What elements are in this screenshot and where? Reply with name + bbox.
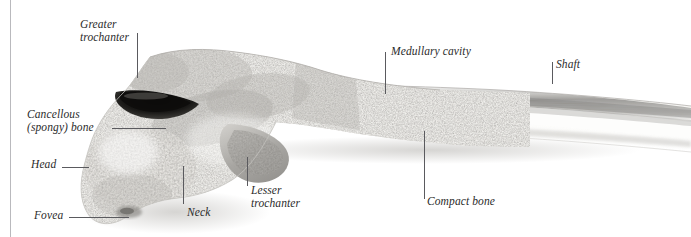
neck-leader (183, 166, 184, 204)
label-cancellous-spongy-bone: Cancellous (spongy) bone (27, 108, 94, 134)
femoral-head-region (84, 126, 196, 210)
lesser-trochanter-leader (247, 157, 248, 186)
page-margin-rule (10, 0, 11, 237)
lesser-trochanter-region (220, 124, 289, 183)
greater-trochanter-region (124, 46, 252, 102)
label-lesser-trochanter: Lesser trochanter (251, 184, 300, 210)
femur-anatomy-figure: Greater trochanter Cancellous (spongy) b… (0, 0, 691, 237)
label-head: Head (31, 158, 56, 171)
head-leader (62, 167, 89, 168)
compact-bone-leader (424, 131, 425, 199)
specimen-shadow-shaft (220, 136, 640, 164)
shaft-leader (552, 62, 553, 84)
cancellous-bone-leader (112, 128, 166, 129)
label-compact-bone: Compact bone (427, 195, 495, 208)
trochanteric-fossa (115, 90, 199, 119)
label-greater-trochanter: Greater trochanter (80, 18, 129, 44)
greater-trochanter-leader (137, 33, 138, 78)
medullary-cavity-region (280, 100, 691, 140)
specimen-shadow-proximal (80, 190, 270, 234)
label-shaft: Shaft (556, 58, 580, 71)
femur-shaft (276, 83, 691, 152)
trabecular-arc-neck (146, 80, 278, 157)
compact-bone-cortex-superior (276, 83, 691, 124)
label-fovea: Fovea (34, 209, 63, 222)
label-neck: Neck (187, 206, 210, 219)
fovea-leader (69, 217, 129, 218)
compact-bone-cortex-inferior (278, 118, 691, 147)
label-medullary-cavity: Medullary cavity (391, 45, 471, 58)
medullary-cavity-leader (385, 52, 386, 94)
